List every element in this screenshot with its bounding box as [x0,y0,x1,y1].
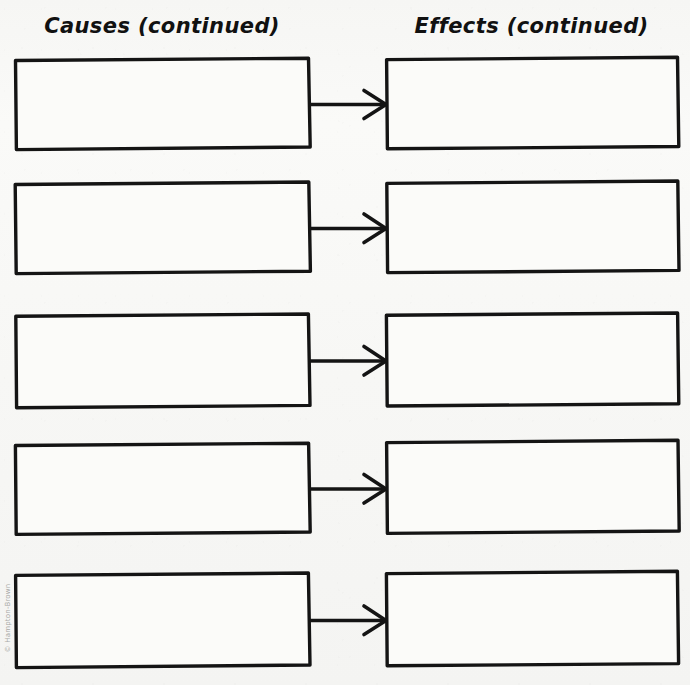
cause-effect-arrow-2 [310,214,386,243]
cause-effect-arrow-3 [310,347,386,376]
worksheet-page: Causes (continued) Effects (continued) [0,0,690,685]
effect-box-5[interactable] [386,571,678,666]
cause-box-3[interactable] [16,314,310,408]
cause-effect-diagram [0,0,690,685]
copyright-notice: © Hampton-Brown [4,579,12,657]
cause-effect-arrow-4 [310,475,386,504]
organizer-row [16,571,679,667]
organizer-row [15,181,679,274]
organizer-row [16,57,679,149]
effect-box-2[interactable] [387,181,679,273]
cause-box-4[interactable] [15,443,310,534]
cause-box-5[interactable] [16,573,310,668]
cause-effect-arrow-5 [310,606,386,635]
cause-effect-arrow-1 [310,91,386,119]
effect-box-1[interactable] [387,57,679,149]
effect-box-3[interactable] [386,313,678,406]
organizer-row [15,440,679,534]
cause-box-2[interactable] [15,182,310,274]
organizer-row [16,313,679,408]
effect-box-4[interactable] [387,440,680,533]
cause-box-1[interactable] [16,58,311,149]
